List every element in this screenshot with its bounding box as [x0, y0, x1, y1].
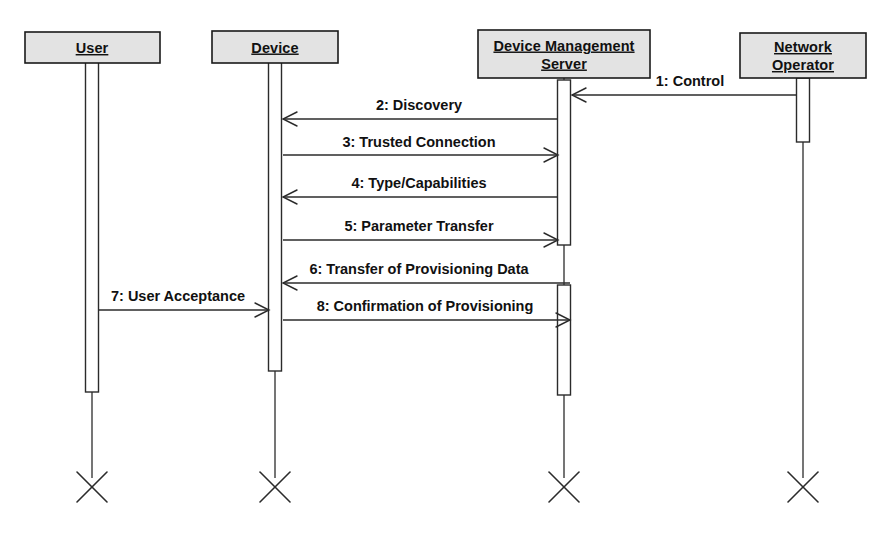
message-4[interactable]: 4: Type/Capabilities — [283, 175, 558, 204]
activation-bar-network_operator-1 — [797, 78, 810, 142]
activation-bar-dms-1 — [558, 80, 571, 245]
message-5[interactable]: 5: Parameter Transfer — [283, 218, 558, 247]
message-label-7: 7: User Acceptance — [111, 288, 245, 304]
message-label-1: 1: Control — [656, 73, 724, 89]
message-3[interactable]: 3: Trusted Connection — [283, 134, 558, 162]
message-label-4: 4: Type/Capabilities — [351, 175, 486, 191]
message-label-2: 2: Discovery — [376, 97, 462, 113]
sequence-diagram-svg: UserDeviceDevice ManagementServerNetwork… — [0, 0, 893, 537]
message-2[interactable]: 2: Discovery — [283, 97, 558, 126]
messages-layer: 1: Control2: Discovery3: Trusted Connect… — [99, 73, 797, 327]
lifeline-label-network_operator: Operator — [772, 57, 834, 73]
message-label-3: 3: Trusted Connection — [342, 134, 495, 150]
message-8[interactable]: 8: Confirmation of Provisioning — [283, 298, 570, 327]
sequence-diagram-canvas: UserDeviceDevice ManagementServerNetwork… — [0, 0, 893, 537]
message-label-8: 8: Confirmation of Provisioning — [317, 298, 534, 314]
lifeline-label-dms: Device Management — [493, 38, 634, 54]
lifeline-label-user: User — [76, 40, 109, 56]
lifeline-label-device: Device — [251, 40, 298, 56]
lifeline-user: User — [25, 32, 160, 502]
lifeline-label-network_operator: Network — [774, 39, 833, 55]
activation-bar-dms-2 — [558, 285, 571, 395]
activation-bar-device-1 — [269, 62, 282, 371]
lifeline-network_operator: NetworkOperator — [740, 33, 866, 502]
activation-bar-user-1 — [86, 62, 99, 392]
message-label-5: 5: Parameter Transfer — [344, 218, 493, 234]
message-7[interactable]: 7: User Acceptance — [99, 288, 269, 317]
message-6[interactable]: 6: Transfer of Provisioning Data — [283, 261, 570, 290]
message-label-6: 6: Transfer of Provisioning Data — [309, 261, 529, 277]
lifeline-label-dms: Server — [541, 56, 587, 72]
